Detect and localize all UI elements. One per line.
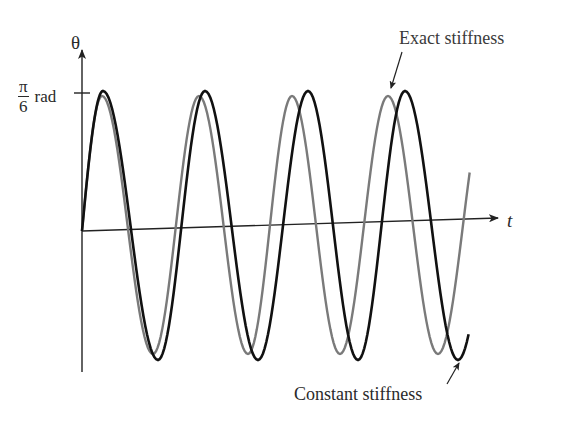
tick-unit: rad: [35, 87, 57, 107]
legend-constant-stiffness: Constant stiffness: [294, 384, 422, 405]
x-axis-label: t: [507, 210, 512, 232]
tick-fraction: π 6: [18, 78, 29, 115]
constant-stiffness-pointer: [447, 363, 459, 384]
legend-exact-stiffness: Exact stiffness: [399, 28, 504, 49]
tick-denominator: 6: [19, 97, 28, 115]
pendulum-angle-chart: [0, 0, 565, 429]
x-axis: [82, 218, 498, 231]
y-axis-label: θ: [71, 32, 80, 54]
exact-stiffness-pointer: [391, 52, 402, 88]
tick-numerator: π: [18, 78, 29, 97]
y-tick-label: π 6 rad: [18, 78, 56, 115]
